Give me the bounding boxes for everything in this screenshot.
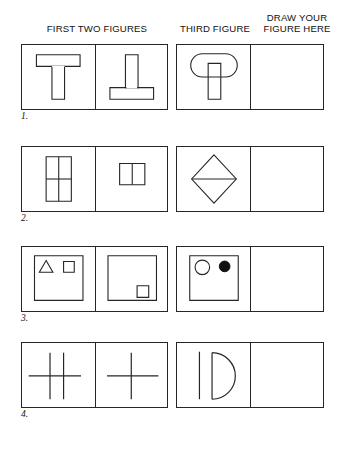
row-2-first-two-figures <box>21 146 168 212</box>
heading-draw-your-figure-here: DRAW YOUR FIGURE HERE <box>253 12 341 34</box>
figure-2a-rectangle-quartered <box>22 147 95 211</box>
heading-first-two-figures: FIRST TWO FIGURES <box>22 23 172 34</box>
question-row-3: 3. <box>21 246 324 312</box>
worksheet-page: FIRST TWO FIGURES THIRD FIGURE DRAW YOUR… <box>0 0 345 460</box>
figure-1b-cell <box>95 45 168 109</box>
row-4-third-and-answer <box>176 342 324 408</box>
row-number-1: 1. <box>21 111 28 121</box>
figure-1a-cell <box>22 45 95 109</box>
figure-2c-cell <box>177 147 250 211</box>
row-3-first-two-figures <box>21 246 168 312</box>
row-1-third-and-answer <box>176 44 324 110</box>
question-row-4: 4. <box>21 342 324 408</box>
figure-4b-plus-sign <box>96 343 168 407</box>
figure-2b-cell <box>95 147 168 211</box>
answer-box-2[interactable] <box>250 147 323 211</box>
answer-box-4[interactable] <box>250 343 323 407</box>
row-number-2: 2. <box>21 213 28 223</box>
answer-box-3[interactable] <box>250 247 323 311</box>
row-number-3: 3. <box>21 313 28 323</box>
figure-4c-cell <box>177 343 250 407</box>
figure-2a-cell <box>22 147 95 211</box>
question-row-2: 2. <box>21 146 324 212</box>
figure-3b-cell <box>95 247 168 311</box>
row-2-third-and-answer <box>176 146 324 212</box>
row-4-first-two-figures <box>21 342 168 408</box>
figure-4a-cell <box>22 343 95 407</box>
figure-1a-t-shape <box>22 45 95 109</box>
figure-3a-cell <box>22 247 95 311</box>
column-headings: FIRST TWO FIGURES THIRD FIGURE DRAW YOUR… <box>0 4 345 38</box>
row-3-third-and-answer <box>176 246 324 312</box>
answer-box-1[interactable] <box>250 45 323 109</box>
row-1-first-two-figures <box>21 44 168 110</box>
figure-1b-inverted-t-shape <box>96 45 168 109</box>
figure-3a-square-triangle-square <box>22 247 95 311</box>
figure-2b-rectangle-halved <box>96 147 168 211</box>
figure-2c-diamond-with-midline <box>177 147 250 211</box>
figure-3c-square-open-and-filled-circles <box>177 247 250 311</box>
figure-4b-cell <box>95 343 168 407</box>
row-number-4: 4. <box>21 409 28 419</box>
question-row-1: 1. <box>21 44 324 110</box>
figure-1c-stadium-and-bar <box>177 45 250 109</box>
figure-3c-cell <box>177 247 250 311</box>
figure-1c-cell <box>177 45 250 109</box>
figure-4c-d-shape <box>177 343 250 407</box>
figure-4a-two-verticals-one-horizontal <box>22 343 95 407</box>
figure-3b-square-small-square-bottom <box>96 247 168 311</box>
heading-third-figure: THIRD FIGURE <box>172 23 258 34</box>
